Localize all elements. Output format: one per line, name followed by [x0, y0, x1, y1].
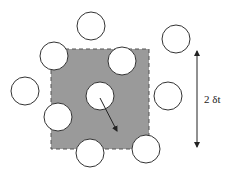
particle-left — [11, 77, 39, 105]
particle-upper-middle — [108, 47, 136, 75]
particle-center — [86, 82, 114, 110]
diagram-canvas: 2 δt — [0, 0, 233, 177]
particle-top-right — [162, 25, 190, 53]
particle-bottom-right — [132, 135, 160, 163]
particles — [11, 12, 190, 167]
particle-upper-left — [40, 42, 68, 70]
particle-right — [154, 82, 182, 110]
particle-bottom — [76, 139, 104, 167]
particle-top — [77, 12, 105, 40]
dimension-label: 2 δt — [204, 93, 221, 105]
particle-lower-left — [44, 103, 72, 131]
